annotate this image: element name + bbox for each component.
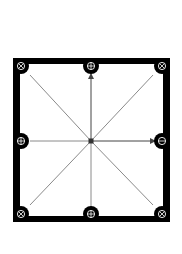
diagram-canvas [0, 0, 182, 254]
diagram-svg [0, 0, 182, 254]
node-bottom-right [154, 206, 170, 222]
node-top-center [83, 58, 99, 74]
node-bottom-left [13, 206, 29, 222]
center-hub-icon [89, 139, 94, 144]
node-bottom-center [83, 206, 99, 222]
node-top-left [13, 58, 29, 74]
center-hub [89, 139, 94, 144]
node-middle-right [154, 133, 170, 149]
node-middle-left [13, 133, 29, 149]
node-top-right [154, 58, 170, 74]
